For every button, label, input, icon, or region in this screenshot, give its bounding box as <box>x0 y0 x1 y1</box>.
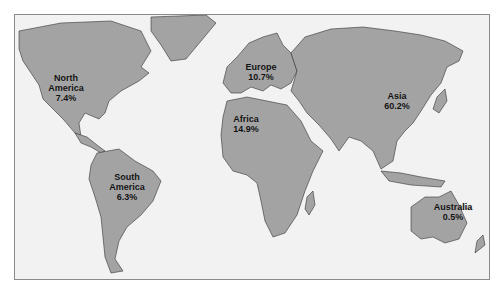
share-value: 60.2% <box>384 101 410 111</box>
world-map: North America 7.4% Europe 10.7% Asia 60.… <box>14 14 490 280</box>
label-europe: Europe 10.7% <box>245 62 276 82</box>
share-value: 0.5% <box>434 212 473 222</box>
madagascar-shape <box>305 191 315 215</box>
share-value: 14.9% <box>233 124 259 134</box>
central-america-shape <box>75 133 105 153</box>
share-value: 10.7% <box>245 72 276 82</box>
japan-shape <box>433 89 447 113</box>
indonesia-shape <box>381 171 445 187</box>
north-america-shape <box>19 21 151 137</box>
continents-layer <box>15 15 489 279</box>
new-zealand-shape <box>475 235 485 253</box>
label-north-america: North America 7.4% <box>48 73 84 103</box>
label-south-america: South America 6.3% <box>109 172 145 202</box>
label-africa: Africa 14.9% <box>233 114 259 134</box>
greenland-shape <box>151 15 216 61</box>
share-value: 6.3% <box>109 192 145 202</box>
label-asia: Asia 60.2% <box>384 91 410 111</box>
share-value: 7.4% <box>48 93 84 103</box>
label-australia: Australia 0.5% <box>434 202 473 222</box>
south-america-shape <box>89 149 161 273</box>
